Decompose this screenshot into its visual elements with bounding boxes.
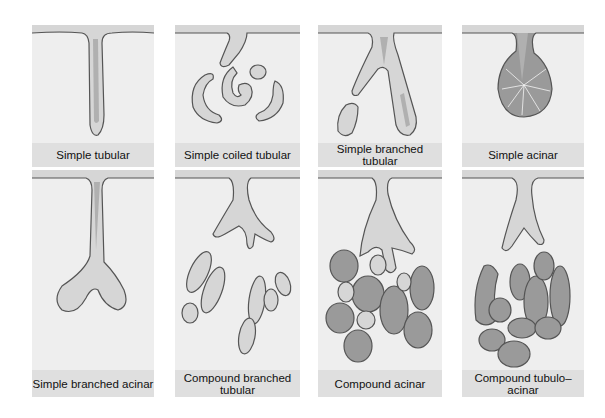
- panel-compound-branched-tubular: Compound branched tubular: [175, 170, 300, 370]
- simple-acinar-illustration: [462, 25, 584, 143]
- caption-simple-branched-tubular: Simple branched tubular: [318, 143, 442, 167]
- caption-simple-acinar: Simple acinar: [462, 143, 584, 167]
- caption-simple-tubular: Simple tubular: [32, 143, 154, 167]
- panel-simple-acinar: Simple acinar: [462, 25, 584, 143]
- caption-compound-branched-tubular: Compound branched tubular: [175, 370, 300, 397]
- panel-simple-coiled-tubular: Simple coiled tubular: [175, 25, 300, 143]
- caption-compound-acinar: Compound acinar: [318, 370, 442, 397]
- panel-compound-tubulo-acinar: Compound tubulo–acinar: [462, 170, 584, 370]
- simple-branched-acinar-illustration: [32, 170, 154, 370]
- caption-simple-coiled-tubular: Simple coiled tubular: [175, 143, 300, 167]
- panel-simple-branched-tubular: Simple branched tubular: [318, 25, 442, 143]
- panel-simple-branched-acinar: Simple branched acinar: [32, 170, 154, 370]
- compound-branched-tubular-illustration: [175, 170, 300, 370]
- simple-branched-tubular-illustration: [318, 25, 442, 143]
- panel-compound-acinar: Compound acinar: [318, 170, 442, 370]
- compound-tubulo-acinar-illustration: [462, 170, 584, 370]
- caption-simple-branched-acinar: Simple branched acinar: [32, 370, 154, 397]
- caption-compound-tubulo-acinar: Compound tubulo–acinar: [462, 370, 584, 397]
- simple-coiled-tubular-illustration: [175, 25, 300, 143]
- panel-simple-tubular: Simple tubular: [32, 25, 154, 143]
- simple-tubular-illustration: [32, 25, 154, 143]
- compound-acinar-illustration: [318, 170, 442, 370]
